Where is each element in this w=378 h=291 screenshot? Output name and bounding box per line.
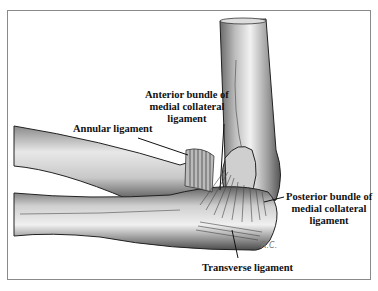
annular-ligament-label: Annular ligament	[73, 123, 152, 135]
artist-signature: R.C.	[261, 241, 277, 250]
humerus-bone	[220, 18, 281, 210]
transverse-ligament-label: Transverse ligament	[202, 262, 293, 274]
annular-ligament	[185, 149, 214, 192]
annular-leader	[138, 138, 188, 155]
anterior-bundle-label: Anterior bundle of medial collateral lig…	[145, 89, 229, 125]
ulna-bone	[14, 187, 277, 251]
radius-bone	[14, 126, 213, 200]
elbow-illustration	[0, 0, 378, 291]
posterior-bundle-label: Posterior bundle of medial collateral li…	[286, 191, 372, 227]
